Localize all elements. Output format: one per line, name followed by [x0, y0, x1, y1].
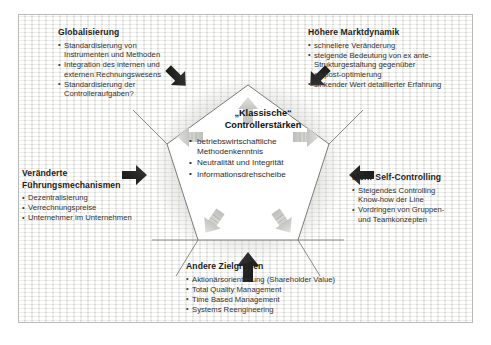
- block-heading: Globalisierung: [58, 27, 198, 39]
- block-items-list: Steigendes Controlling Know-how der Line…: [352, 186, 477, 225]
- block-items-list: Standardisierung von Instrumenten und Me…: [58, 41, 198, 100]
- list-item: Time Based Management: [186, 295, 346, 305]
- list-item: Vordringen von Gruppen- und Teamkonzepte…: [352, 205, 477, 224]
- block-fuehrungsmechanismen: Veränderte Führungsmechanismen Dezentral…: [22, 168, 162, 223]
- block-marktdynamik: Höhere Marktdynamik schnellere Veränderu…: [308, 27, 473, 90]
- block-heading: Höhere Marktdynamik: [308, 27, 473, 39]
- list-item: Aktionärsorientierung (Shareholder Value…: [186, 275, 346, 285]
- block-heading: Veränderte Führungsmechanismen: [22, 168, 162, 191]
- list-item: Dezentralisierung: [22, 193, 162, 203]
- core-strengths-block: „Klassische“ Controllerstärken betriebsw…: [189, 108, 337, 181]
- block-globalisierung: Globalisierung Standardisierung von Inst…: [58, 27, 198, 100]
- diagram-canvas: „Klassische“ Controllerstärken betriebsw…: [0, 0, 491, 345]
- list-item: sinkender Wert detaillierter Erfahrung: [308, 80, 473, 90]
- block-zielgroessen: Andere Zielgrößen Aktionärsorientierung …: [186, 261, 346, 315]
- list-item: steigende Bedeutung von ex ante- Struktu…: [308, 51, 473, 80]
- block-heading: Andere Zielgrößen: [186, 261, 346, 273]
- core-item: Informationsdrehscheibe: [189, 170, 337, 180]
- list-item: Verrechnungspreise: [22, 203, 162, 213]
- list-item: Standardisierung der Controlleraufgaben?: [58, 80, 198, 99]
- core-title: „Klassische“ Controllerstärken: [189, 108, 337, 132]
- block-items-list: Dezentralisierung Verrechnungspreise Unt…: [22, 193, 162, 223]
- block-heading: Mehr Self-Controlling: [352, 172, 477, 184]
- core-item: betriebswirtschaftliche Methodenkenntnis: [189, 137, 337, 158]
- list-item: Standardisierung von Instrumenten und Me…: [58, 41, 198, 60]
- core-items-list: betriebswirtschaftliche Methodenkenntnis…: [189, 137, 337, 181]
- list-item: Total Quality Management: [186, 285, 346, 295]
- list-item: schnellere Veränderung: [308, 41, 473, 51]
- list-item: Integration des internen und externen Re…: [58, 60, 198, 79]
- block-self-controlling: Mehr Self-Controlling Steigendes Control…: [352, 172, 477, 225]
- block-items-list: Aktionärsorientierung (Shareholder Value…: [186, 275, 346, 315]
- list-item: Unternehmer im Unternehmen: [22, 213, 162, 223]
- block-items-list: schnellere Veränderung steigende Bedeutu…: [308, 41, 473, 90]
- list-item: Systems Reengineering: [186, 305, 346, 315]
- list-item: Steigendes Controlling Know-how der Line: [352, 186, 477, 205]
- core-item: Neutralität und Integrität: [189, 158, 337, 168]
